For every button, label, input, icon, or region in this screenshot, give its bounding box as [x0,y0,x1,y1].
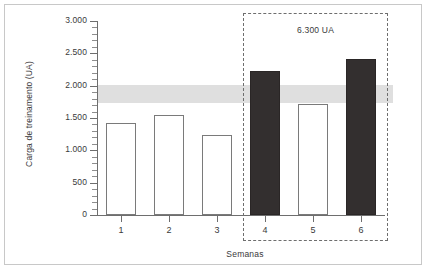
y-major-tick [90,86,97,87]
y-minor-tick [92,99,97,100]
y-axis-line [97,21,98,216]
y-tick-label: 2.000 [39,80,87,90]
x-tick-label: 1 [106,225,136,235]
y-tick-labels: 05001.0001.5002.0002.5003.000 [35,5,87,235]
y-minor-tick [92,170,97,171]
y-minor-tick [92,189,97,190]
y-minor-tick [92,176,97,177]
bar-week-1 [106,123,136,215]
x-tick-label: 3 [202,225,232,235]
y-tick-label: 1.500 [39,112,87,122]
y-tick-label: 2.500 [39,47,87,57]
bar-week-2 [154,115,184,215]
x-tick [361,216,362,222]
y-tick-label: 500 [39,177,87,187]
y-minor-tick [92,73,97,74]
y-minor-tick [92,47,97,48]
y-minor-tick [92,157,97,158]
x-axis-title: Semanas [100,249,390,259]
y-tick-label: 0 [39,209,87,219]
figure-frame: 6.300 UA 05001.0001.5002.0002.5003.000 1… [4,4,422,265]
y-minor-tick [92,27,97,28]
y-minor-tick [92,92,97,93]
bar-week-5 [298,104,328,215]
y-minor-tick [92,34,97,35]
y-major-tick [90,215,97,216]
y-minor-tick [92,79,97,80]
y-minor-tick [92,40,97,41]
y-major-tick [90,53,97,54]
y-major-tick [90,21,97,22]
y-major-tick [90,150,97,151]
y-axis-title: Carga de treinamento (UA) [24,29,34,199]
x-tick [169,216,170,222]
y-minor-tick [92,131,97,132]
bar-week-4 [250,71,280,215]
x-tick [313,216,314,222]
y-tick-label: 1.000 [39,144,87,154]
y-minor-tick [92,66,97,67]
y-minor-tick [92,137,97,138]
y-minor-tick [92,209,97,210]
y-tick-label: 3.000 [39,15,87,25]
y-minor-tick [92,124,97,125]
y-minor-tick [92,60,97,61]
x-tick-label: 4 [250,225,280,235]
x-tick-label: 2 [154,225,184,235]
y-minor-tick [92,144,97,145]
y-minor-tick [92,202,97,203]
y-minor-tick [92,105,97,106]
y-major-tick [90,183,97,184]
x-tick [265,216,266,222]
x-tick [217,216,218,222]
x-tick [121,216,122,222]
bar-week-3 [202,135,232,215]
chart-plot-area: 6.300 UA 05001.0001.5002.0002.5003.000 1… [5,5,423,266]
x-tick-label: 6 [346,225,376,235]
y-minor-tick [92,196,97,197]
x-axis-line [97,215,385,216]
x-tick-label: 5 [298,225,328,235]
y-major-tick [90,118,97,119]
y-minor-tick [92,163,97,164]
overload-total-label: 6.300 UA [243,25,388,35]
bar-week-6 [346,59,376,215]
y-minor-tick [92,112,97,113]
